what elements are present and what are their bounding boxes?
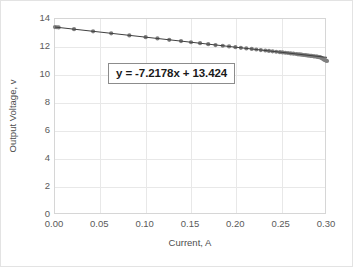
scatter-data-layer (55, 19, 327, 215)
chart-container: 02468101214 Output Voltage, v 0.000.050.… (0, 0, 353, 267)
x-axis-tick-label: 0.25 (261, 218, 301, 229)
data-point-marker (325, 59, 329, 63)
x-axis-tick-label: 0.10 (125, 218, 165, 229)
x-axis-tick-label: 0.15 (170, 218, 210, 229)
x-axis-tick-label: 0.05 (79, 218, 119, 229)
trendline-equation-label: y = -7.2178x + 13.424 (108, 63, 235, 84)
x-axis-tick-label: 0.30 (306, 218, 346, 229)
y-axis-title-wrapper: Output Voltage, v (5, 18, 19, 214)
x-axis-tick-label: 0.00 (34, 218, 74, 229)
x-axis-title: Current, A (54, 237, 326, 248)
x-axis-tick-label: 0.20 (215, 218, 255, 229)
y-axis-title: Output Voltage, v (7, 80, 18, 153)
linear-trendline (55, 27, 327, 57)
plot-area (54, 18, 326, 214)
x-axis-tick-labels: 0.000.050.100.150.200.250.30 (54, 218, 326, 232)
